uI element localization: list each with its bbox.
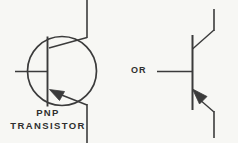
- emitter-arrowhead-icon: [193, 89, 208, 104]
- symbol-pnp-transistor-plain: [157, 9, 214, 138]
- caption-line-transistor: TRANSISTOR: [0, 120, 96, 131]
- alternative-connector-label: OR: [131, 65, 147, 76]
- emitter-arrowhead-icon: [50, 90, 65, 101]
- caption-line-pnp: PNP: [0, 107, 96, 118]
- collector-slant: [193, 30, 215, 49]
- pnp-transistor-figure: PNP TRANSISTOR OR: [0, 0, 238, 143]
